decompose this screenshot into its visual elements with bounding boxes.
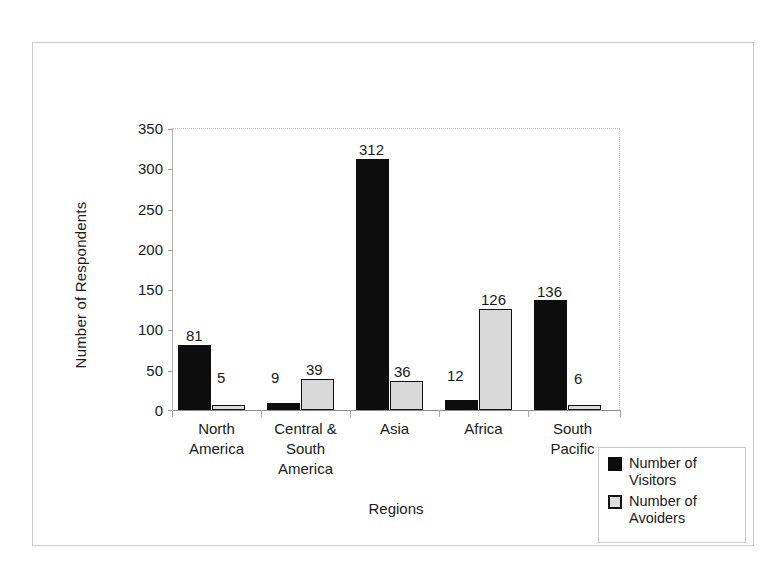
y-tick-mark [168,330,173,331]
x-category-label-line: North [172,419,261,439]
y-axis-title: Number of Respondents [72,160,94,410]
legend-item-visitors[interactable]: Number of Visitors [608,455,739,489]
legend-label-line: Number of [629,455,697,471]
x-category-tick [261,410,262,417]
y-tick-label: 300 [105,161,163,176]
bar-group-central-south-america: 9 39 [267,128,351,410]
bar-visitors-asia[interactable] [356,159,389,410]
bar-label-visitors-africa: 12 [447,368,464,383]
x-category-label-line: Asia [350,419,439,439]
x-category-label-asia: Asia [350,419,439,439]
x-category-label-line: South [261,439,350,459]
y-tick-mark [168,371,173,372]
y-tick-mark [168,290,173,291]
x-category-label-line: Central & [261,419,350,439]
y-tick-mark [168,210,173,211]
y-tick-label: 250 [105,201,163,216]
x-category-tick [350,410,351,417]
x-axis-category-labels: North America Central & South America As… [172,419,620,504]
bar-label-avoiders-asia: 36 [394,364,411,379]
black-square-icon [608,457,622,471]
bar-label-avoiders-north-america: 5 [217,370,225,385]
legend-label-visitors: Number of Visitors [629,455,697,489]
y-tick-mark [168,250,173,251]
bar-avoiders-central-south-america[interactable] [301,379,334,410]
bar-visitors-north-america[interactable] [178,345,211,410]
legend-label-line: Number of [629,493,697,509]
y-tick-mark [168,169,173,170]
y-tick-label: 0 [105,403,163,418]
bar-visitors-south-pacific[interactable] [534,300,567,410]
x-category-label-line: South [528,419,617,439]
x-category-label-central-south-america: Central & South America [261,419,350,479]
legend: Number of Visitors Number of Avoiders [598,447,746,543]
x-axis-line [172,410,621,411]
bar-group-asia: 312 36 [356,128,440,410]
legend-label-avoiders: Number of Avoiders [629,493,697,527]
bar-avoiders-asia[interactable] [390,381,423,410]
y-tick-label: 350 [105,121,163,136]
bar-label-visitors-central-south-america: 9 [271,370,279,385]
bar-group-south-pacific: 136 6 [534,128,618,410]
x-category-label-line: America [261,459,350,479]
x-category-tick [172,410,173,417]
x-category-tick [528,410,529,417]
bar-visitors-central-south-america[interactable] [267,403,300,410]
x-category-label-north-america: North America [172,419,261,459]
y-tick-label: 100 [105,322,163,337]
bar-label-avoiders-south-pacific: 6 [574,371,582,386]
bar-group-africa: 12 126 [445,128,529,410]
x-category-label-africa: Africa [439,419,528,439]
legend-label-line: Visitors [629,472,676,488]
y-tick-label: 200 [105,241,163,256]
bar-avoiders-africa[interactable] [479,309,512,411]
legend-item-avoiders[interactable]: Number of Avoiders [608,493,739,527]
bar-visitors-africa[interactable] [445,400,478,410]
y-tick-label: 50 [105,362,163,377]
y-axis-tick-labels: 350 300 250 200 150 100 50 0 [103,128,163,410]
x-category-label-line: Africa [439,419,528,439]
bar-label-visitors-north-america: 81 [186,328,203,343]
y-tick-label: 150 [105,282,163,297]
gray-square-icon [608,495,622,509]
x-category-tick [620,410,621,417]
bar-label-avoiders-central-south-america: 39 [306,362,323,377]
bar-group-north-america: 81 5 [178,128,262,410]
x-category-tick [439,410,440,417]
legend-label-line: Avoiders [629,510,685,526]
plot-area: 81 5 9 39 312 36 12 126 136 [172,128,620,410]
chart-figure: Number of Respondents 350 300 250 200 15… [0,0,778,580]
bar-label-avoiders-africa: 126 [481,292,506,307]
bar-label-visitors-south-pacific: 136 [537,284,562,299]
x-category-label-line: America [172,439,261,459]
x-axis-title: Regions [172,500,620,517]
y-tick-mark [168,129,173,130]
bar-label-visitors-asia: 312 [359,142,384,157]
